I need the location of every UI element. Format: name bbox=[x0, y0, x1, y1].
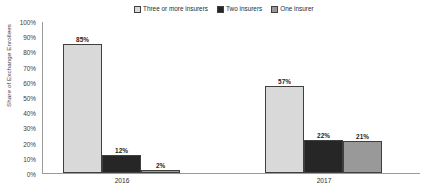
y-axis-tick-label: 70% bbox=[23, 64, 36, 71]
legend-swatch-icon bbox=[217, 6, 224, 13]
y-axis-tick-label: 40% bbox=[23, 110, 36, 117]
bar-value-label: 22% bbox=[304, 132, 343, 139]
legend-label: One insurer bbox=[280, 5, 313, 13]
plot-area: 85%12%2%57%22%21% bbox=[42, 22, 420, 174]
bar-group: 85%12%2% bbox=[63, 22, 181, 173]
x-axis-tick-label: 2016 bbox=[115, 177, 130, 184]
bar-value-label: 85% bbox=[63, 36, 102, 43]
y-axis-tick-label: 80% bbox=[23, 49, 36, 56]
y-axis-tick-label: 10% bbox=[23, 155, 36, 162]
y-axis-tick-labels: 100%90%80%70%60%50%40%30%20%10%0% bbox=[0, 22, 40, 174]
legend-swatch-icon bbox=[134, 6, 141, 13]
bar-slot: 22% bbox=[304, 22, 343, 173]
legend-swatch-icon bbox=[271, 6, 278, 13]
legend-item-one-insurer: One insurer bbox=[271, 5, 313, 13]
bars-layer: 85%12%2%57%22%21% bbox=[43, 22, 420, 173]
x-axis-tick-label: 2017 bbox=[317, 177, 332, 184]
bar-value-label: 21% bbox=[343, 133, 382, 140]
bar-value-label: 2% bbox=[141, 162, 180, 169]
legend-item-two-insurers: Two insurers bbox=[217, 5, 262, 13]
y-axis-tick-label: 50% bbox=[23, 95, 36, 102]
bar-value-label: 57% bbox=[265, 78, 304, 85]
bar[interactable] bbox=[265, 86, 304, 173]
y-axis-tick-label: 0% bbox=[27, 171, 36, 178]
bar-value-label: 12% bbox=[102, 147, 141, 154]
bar[interactable] bbox=[102, 155, 141, 173]
bar-slot: 57% bbox=[265, 22, 304, 173]
bar[interactable] bbox=[304, 140, 343, 173]
y-axis-tick-label: 30% bbox=[23, 125, 36, 132]
bar-chart: Three or more insurers Two insurers One … bbox=[0, 0, 429, 195]
bar-slot: 2% bbox=[141, 22, 180, 173]
x-axis-line bbox=[42, 173, 420, 174]
y-axis-tick-label: 20% bbox=[23, 140, 36, 147]
bar[interactable] bbox=[343, 141, 382, 173]
legend-item-three-or-more-insurers: Three or more insurers bbox=[134, 5, 208, 13]
legend-label: Two insurers bbox=[226, 5, 262, 13]
bar[interactable] bbox=[141, 170, 180, 173]
bar-group: 57%22%21% bbox=[265, 22, 383, 173]
x-axis-tick-labels: 20162017 bbox=[42, 177, 420, 189]
bar[interactable] bbox=[63, 44, 102, 173]
bar-slot: 12% bbox=[102, 22, 141, 173]
y-axis-tick-label: 60% bbox=[23, 79, 36, 86]
bar-slot: 21% bbox=[343, 22, 382, 173]
bar-slot: 85% bbox=[63, 22, 102, 173]
y-axis-tick-label: 100% bbox=[20, 19, 36, 26]
y-axis-tick-label: 90% bbox=[23, 34, 36, 41]
chart-legend: Three or more insurers Two insurers One … bbox=[134, 3, 334, 15]
legend-label: Three or more insurers bbox=[143, 5, 208, 13]
